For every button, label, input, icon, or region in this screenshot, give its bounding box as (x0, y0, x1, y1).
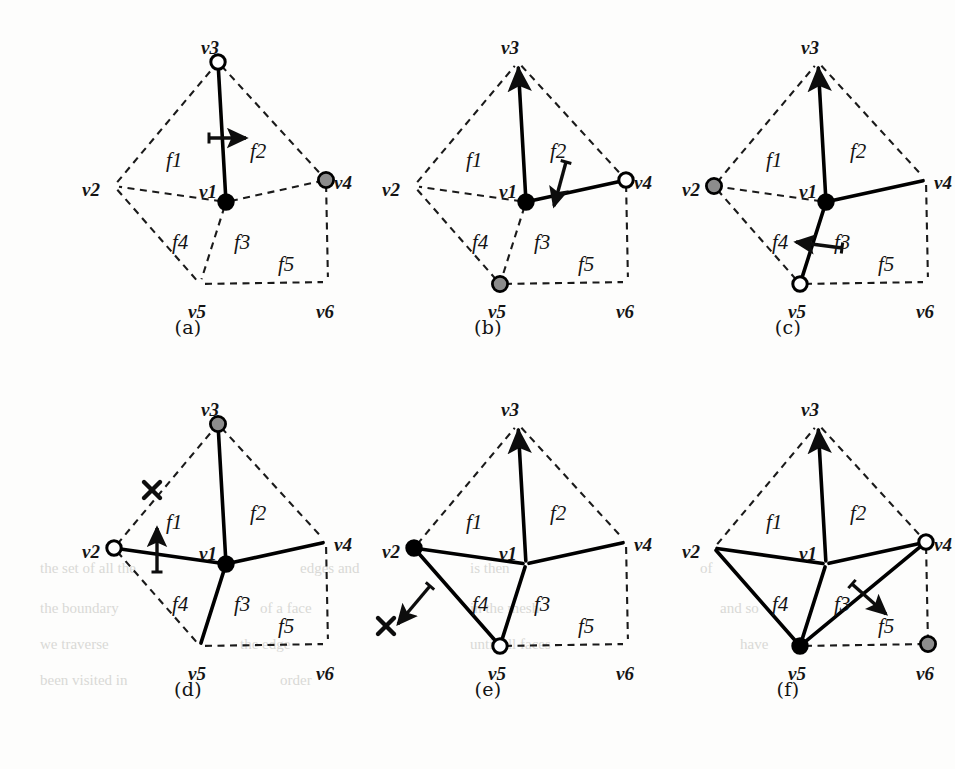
panel-caption-d: (d) (38, 678, 338, 700)
vertex-marker-v6 (920, 636, 935, 651)
cross-mark (144, 482, 160, 498)
face-label-f4: f4 (472, 594, 488, 615)
vertex-marker-v4 (919, 535, 933, 549)
cross-mark (378, 618, 394, 634)
vertex-label-v1: v1 (199, 544, 217, 563)
vertex-label-v3: v3 (501, 38, 519, 57)
vertex-marker-v2 (107, 541, 121, 555)
figure-panel-b: v1v2v3v4v5v6f1f2f3f4f5(b) (338, 10, 638, 375)
vertex-label-v3: v3 (801, 400, 819, 419)
face-label-f4: f4 (472, 232, 488, 253)
vertex-marker-v5 (793, 277, 807, 291)
face-label-f1: f1 (166, 512, 182, 533)
figure-container: the set of all theedges andis thenofthe … (0, 0, 955, 769)
face-label-f5: f5 (878, 616, 894, 637)
face-label-f5: f5 (578, 254, 594, 275)
vertex-label-v4: v4 (934, 535, 952, 554)
face-label-f5: f5 (278, 254, 294, 275)
vertex-label-v2: v2 (82, 180, 100, 199)
face-label-f3: f3 (534, 594, 550, 615)
panel-caption-c: (c) (638, 316, 938, 338)
vertex-marker-v1 (818, 194, 833, 209)
panel-caption-f: (f) (638, 678, 938, 700)
direction-arrow (398, 586, 430, 624)
vertex-marker-v5 (492, 276, 507, 291)
face-label-f2: f2 (250, 503, 266, 524)
face-label-f1: f1 (766, 150, 782, 171)
vertex-label-v2: v2 (382, 180, 400, 199)
vertex-marker-v2 (706, 178, 721, 193)
vertex-marker-v4 (318, 172, 333, 187)
face-label-f4: f4 (172, 232, 188, 253)
face-label-f1: f1 (766, 512, 782, 533)
vertex-label-v2: v2 (382, 542, 400, 561)
vertex-label-v3: v3 (201, 400, 219, 419)
face-label-f3: f3 (834, 594, 850, 615)
face-label-f3: f3 (234, 594, 250, 615)
vertex-label-v3: v3 (201, 38, 219, 57)
figure-panel-d: v1v2v3v4v5v6f1f2f3f4f5(d) (38, 372, 338, 737)
face-label-f2: f2 (850, 503, 866, 524)
vertex-label-v2: v2 (682, 542, 700, 561)
vertex-label-v2: v2 (82, 542, 100, 561)
face-label-f3: f3 (834, 232, 850, 253)
face-label-f1: f1 (166, 150, 182, 171)
face-label-f4: f4 (772, 232, 788, 253)
vertex-label-v1: v1 (799, 544, 817, 563)
face-label-f1: f1 (466, 150, 482, 171)
face-label-f3: f3 (534, 232, 550, 253)
face-label-f2: f2 (550, 503, 566, 524)
vertex-label-v1: v1 (799, 182, 817, 201)
figure-panel-f: v1v2v3v4v5v6f1f2f3f4f5(f) (638, 372, 938, 737)
face-label-f2: f2 (550, 141, 566, 162)
vertex-marker-v1 (218, 556, 233, 571)
vertex-label-v3: v3 (501, 400, 519, 419)
face-label-f2: f2 (250, 141, 266, 162)
vertex-marker-v4 (619, 173, 633, 187)
face-label-f4: f4 (772, 594, 788, 615)
face-label-f5: f5 (578, 616, 594, 637)
figure-panel-a: v1v2v3v4v5v6f1f2f3f4f5(a) (38, 10, 338, 375)
panel-caption-a: (a) (38, 316, 338, 338)
vertex-label-v2: v2 (682, 180, 700, 199)
vertex-label-v3: v3 (801, 38, 819, 57)
figure-panel-e: v1v2v3v4v5v6f1f2f3f4f5(e) (338, 372, 638, 737)
face-label-f5: f5 (878, 254, 894, 275)
vertex-label-v1: v1 (199, 182, 217, 201)
vertex-marker-v5 (792, 638, 807, 653)
face-label-f2: f2 (850, 141, 866, 162)
panel-caption-b: (b) (338, 316, 638, 338)
face-label-f1: f1 (466, 512, 482, 533)
face-label-f4: f4 (172, 594, 188, 615)
vertex-marker-v5 (493, 639, 507, 653)
direction-arrow (554, 162, 566, 206)
vertex-label-v4: v4 (934, 173, 952, 192)
panel-caption-e: (e) (338, 678, 638, 700)
vertex-label-v1: v1 (499, 544, 517, 563)
vertex-marker-v1 (218, 194, 233, 209)
vertex-label-v1: v1 (499, 182, 517, 201)
vertex-marker-v1 (518, 194, 533, 209)
vertex-marker-v2 (406, 540, 421, 555)
face-label-f3: f3 (234, 232, 250, 253)
face-label-f5: f5 (278, 616, 294, 637)
figure-panel-c: v1v2v3v4v5v6f1f2f3f4f5(c) (638, 10, 938, 375)
